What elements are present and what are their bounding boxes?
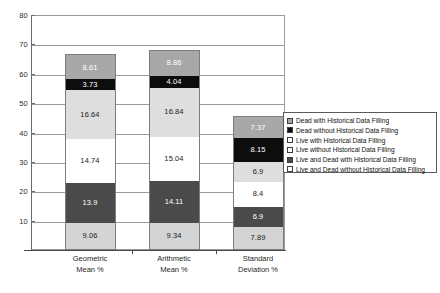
legend-swatch-icon [287,118,293,124]
y-axis-tick-mark [31,133,35,134]
x-axis-tick-mark [132,250,133,254]
legend-swatch-icon [287,137,293,143]
x-axis-label-line: Mean % [44,265,136,276]
y-axis-tick-mark [31,162,35,163]
chart-legend: Dead with Historical Data FillingDead wi… [283,112,437,173]
y-axis-tick-label: 80 [19,11,28,20]
bar-segment: 16.64 [65,90,116,139]
y-axis-tick-label: 70 [19,40,28,49]
bar-segment: 14.11 [149,181,200,222]
legend-item[interactable]: Live and Dead without Historical Data Fi… [287,164,433,174]
legend-item[interactable]: Live and Dead with Historical Data Filli… [287,155,433,165]
bar-segment: 3.73 [65,79,116,90]
y-axis-tick-label: 60 [19,69,28,78]
y-axis-tick-mark [31,15,35,16]
bar-segment: 8.15 [233,138,284,162]
legend-item-label: Dead without Historical Data Filling [296,126,398,135]
bar-stack: 7.896.98.46.98.157.37 [233,116,284,250]
bar-stack: 9.0613.914.7416.643.738.61 [65,54,116,250]
bar-segment: 8.61 [65,54,116,79]
x-axis-label-line: Mean % [128,265,220,276]
legend-item-label: Live and Dead without Historical Data Fi… [296,165,425,174]
x-axis-label-line: Standard [212,254,304,265]
y-axis-tick-mark [31,221,35,222]
y-axis-tick-label: 50 [19,99,28,108]
legend-swatch-icon [287,157,293,163]
bar-stack: 9.3414.1115.0416.844.048.86 [149,50,200,250]
legend-item[interactable]: Dead without Historical Data Filling [287,126,433,136]
y-axis-tick-label: 30 [19,157,28,166]
legend-swatch-icon [287,166,293,172]
x-axis-category-label: ArithmeticMean % [128,254,220,275]
y-axis-tick-mark [31,74,35,75]
y-axis-tick-mark [31,191,35,192]
bar-segment: 16.84 [149,88,200,137]
bar-segment: 9.34 [149,223,200,250]
x-axis-category-label: GeometricMean % [44,254,136,275]
bar-segment: 15.04 [149,137,200,181]
legend-item[interactable]: Live with Historical Data Filling [287,135,433,145]
bar-segment: 8.86 [149,50,200,76]
x-axis-tick-mark [216,250,217,254]
y-axis-tick-label: 40 [19,128,28,137]
legend-item-label: Live with Historical Data Filling [296,136,385,145]
legend-swatch-icon [287,127,293,133]
y-axis-tick-label: 20 [19,187,28,196]
x-axis-label-line: Geometric [44,254,136,265]
legend-item-label: Live and Dead with Historical Data Filli… [296,155,416,164]
bar-segment: 9.06 [65,223,116,250]
stacked-bar-chart: 1020304050607080 9.0613.914.7416.643.738… [0,0,440,293]
bars-layer: 9.0613.914.7416.643.738.619.3414.1115.04… [31,15,285,250]
x-axis-label-line: Deviation % [212,265,304,276]
y-axis-tick-label: 10 [19,216,28,225]
x-axis-line [24,250,286,251]
bar-segment: 14.74 [65,139,116,182]
bar-segment: 6.9 [233,162,284,182]
legend-swatch-icon [287,147,293,153]
bar-segment: 6.9 [233,207,284,227]
bar-segment: 7.37 [233,116,284,138]
y-axis-tick-mark [31,103,35,104]
y-axis-tick-mark [31,44,35,45]
bar-segment: 8.4 [233,182,284,207]
legend-item-label: Dead with Historical Data Filling [296,116,389,125]
bar-segment: 7.89 [233,227,284,250]
x-axis-labels: GeometricMean %ArithmeticMean %StandardD… [31,254,285,292]
legend-item-label: Live without Historical Data Filling [296,145,395,154]
bar-segment: 4.04 [149,76,200,88]
bar-segment: 13.9 [65,183,116,224]
legend-item[interactable]: Live without Historical Data Filling [287,145,433,155]
x-axis-category-label: StandardDeviation % [212,254,304,275]
legend-item[interactable]: Dead with Historical Data Filling [287,116,433,126]
x-axis-label-line: Arithmetic [128,254,220,265]
